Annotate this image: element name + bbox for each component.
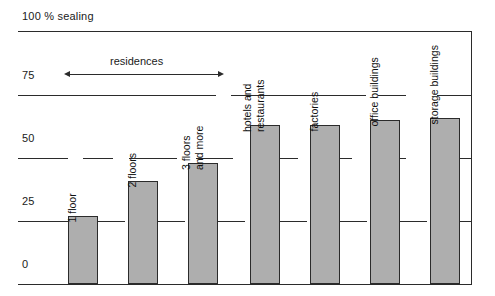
gridline-75-segment-3 bbox=[378, 95, 406, 96]
y-axis-label-50: 50 bbox=[22, 132, 35, 144]
gridline-25-segment-7 bbox=[400, 221, 427, 222]
annotation-residences-label: residences bbox=[110, 55, 163, 67]
gridline-50-segment-1 bbox=[18, 158, 68, 159]
bar-label-factories: factories bbox=[309, 92, 321, 132]
gridline-25-segment-4 bbox=[218, 221, 245, 222]
bar-label-2-floors: 2 floors bbox=[127, 153, 139, 187]
y-axis-label-100: 100 % sealing bbox=[22, 10, 94, 22]
bar-storage-buildings bbox=[430, 118, 460, 284]
bar-label-3-floors-and-more-line1: 3 floors bbox=[180, 136, 192, 170]
bar-1-floor bbox=[68, 216, 98, 284]
bar-2-floors bbox=[128, 181, 158, 284]
y-axis-label-75: 75 bbox=[22, 69, 35, 81]
bar-label-storage-buildings: storage buildings bbox=[429, 45, 441, 124]
bar-hotels-and-restaurants bbox=[250, 125, 280, 284]
annotation-residences-arrow-head-left bbox=[64, 71, 70, 77]
bar-label-1-floor: 1 floor bbox=[67, 193, 79, 222]
bar-factories bbox=[310, 125, 340, 284]
bar-label-office-buildings: office buildings bbox=[369, 57, 381, 126]
bar-office-buildings bbox=[370, 120, 400, 284]
x-axis-baseline bbox=[18, 284, 472, 285]
gridline-50-segment-2 bbox=[83, 158, 113, 159]
gridline-100 bbox=[18, 31, 472, 32]
bar-3-floors-and-more bbox=[188, 163, 218, 284]
annotation-residences-arrow-head-right bbox=[218, 71, 224, 77]
chart-frame-right-edge bbox=[471, 31, 472, 285]
gridline-25-segment-5 bbox=[280, 221, 307, 222]
gridline-75-segment-1 bbox=[18, 95, 216, 96]
annotation-residences-arrow-line bbox=[70, 74, 218, 75]
gridline-75-segment-4 bbox=[437, 95, 472, 96]
gridline-25-segment-3 bbox=[158, 221, 185, 222]
gridline-25-segment-6 bbox=[340, 221, 367, 222]
gridline-25-segment-1 bbox=[18, 221, 68, 222]
y-axis-label-25: 25 bbox=[22, 195, 35, 207]
bar-label-hotels-and-restaurants-line1: hotels and bbox=[241, 84, 253, 132]
bar-label-hotels-and-restaurants-line2: restaurants bbox=[254, 79, 266, 132]
bar-label-3-floors-and-more-line2: and more bbox=[193, 126, 205, 170]
gridline-25-segment-2 bbox=[98, 221, 125, 222]
sealing-bar-chart: 100 % sealing 75 50 25 0 residences 1 fl… bbox=[0, 0, 495, 296]
y-axis-label-0: 0 bbox=[22, 258, 28, 270]
